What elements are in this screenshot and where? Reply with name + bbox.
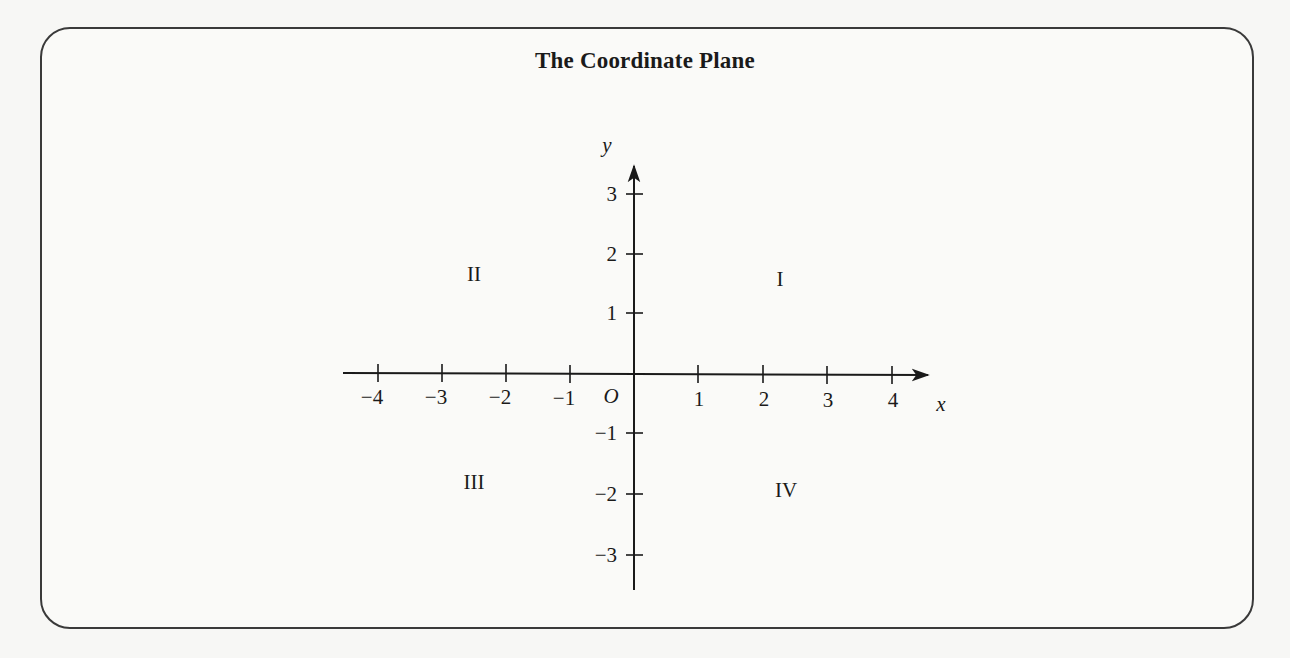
y-tick-label: −1 xyxy=(595,421,617,445)
quadrant-label-iv: IV xyxy=(775,478,797,502)
x-tick-label: −2 xyxy=(489,385,511,409)
x-tick-label: 2 xyxy=(759,387,770,411)
x-tick-label: 1 xyxy=(694,387,705,411)
coordinate-plane: −4 −3 −2 −1 1 2 3 4 O x y 3 2 1 −1 −2 −3… xyxy=(0,0,1290,658)
y-tick-label: 3 xyxy=(607,182,618,206)
y-tick-label: −2 xyxy=(595,482,617,506)
x-tick-label: −4 xyxy=(361,385,384,409)
x-axis xyxy=(343,373,928,375)
x-tick-label: −3 xyxy=(425,385,447,409)
quadrant-label-ii: II xyxy=(467,262,481,286)
x-tick-labels: −4 −3 −2 −1 1 2 3 4 xyxy=(361,385,899,412)
x-tick-label: 3 xyxy=(823,388,834,412)
quadrant-label-i: I xyxy=(777,267,784,291)
x-tick-label: −1 xyxy=(553,386,575,410)
y-tick-label: 1 xyxy=(607,301,618,325)
origin-label: O xyxy=(603,384,618,408)
y-tick-label: 2 xyxy=(607,242,618,266)
x-tick-label: 4 xyxy=(888,388,899,412)
y-tick-label: −3 xyxy=(595,543,617,567)
y-axis-label: y xyxy=(600,133,612,157)
quadrant-label-iii: III xyxy=(464,470,485,494)
x-axis-label: x xyxy=(935,392,946,416)
